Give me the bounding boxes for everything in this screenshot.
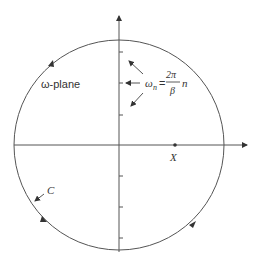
point-x (173, 143, 177, 147)
svg-text:2π: 2π (166, 69, 177, 80)
omega-plane-diagram: ω-plane C X ω n = 2π β n (0, 0, 259, 263)
svg-text:β: β (169, 85, 175, 96)
contour-label: C (47, 184, 55, 196)
pointer-arrows (126, 61, 143, 106)
svg-text:=: = (159, 77, 165, 89)
svg-text:ω: ω (145, 77, 153, 89)
contour-pointer (35, 194, 44, 201)
svg-text:n: n (182, 77, 188, 89)
svg-text:n: n (153, 83, 157, 92)
point-label: X (169, 151, 178, 163)
plane-label: ω-plane (41, 78, 80, 90)
matsubara-formula: ω n = 2π β n (145, 69, 188, 96)
